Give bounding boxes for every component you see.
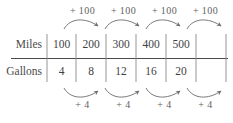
bottom-arrow-label-1: + 4 [60, 100, 105, 110]
miles-cell-3: 300 [106, 39, 136, 51]
bottom-arrow-1 [64, 88, 98, 97]
bottom-arrow-4 [187, 88, 221, 97]
top-arrow-2 [105, 20, 139, 29]
top-arrow-1 [64, 20, 98, 29]
gallons-cell-2: 8 [76, 66, 106, 78]
top-arrow-label-3: + 100 [142, 6, 187, 16]
top-arrow-3 [146, 20, 180, 29]
gallons-cell-4: 16 [136, 66, 166, 78]
row-label-gallons: Gallons [0, 66, 42, 78]
top-arrow-label-4: + 100 [183, 6, 228, 16]
bottom-arrows [64, 88, 221, 97]
top-arrow-label-2: + 100 [101, 6, 146, 16]
miles-cell-2: 200 [76, 39, 106, 51]
miles-cell-4: 400 [136, 39, 166, 51]
row-label-miles: Miles [0, 39, 42, 51]
bottom-arrow-label-3: + 4 [142, 100, 187, 110]
bottom-arrow-2 [105, 88, 139, 97]
bottom-arrow-label-2: + 4 [101, 100, 146, 110]
top-arrows [64, 20, 221, 29]
gallons-cell-5: 20 [166, 66, 196, 78]
bottom-arrow-label-4: + 4 [183, 100, 228, 110]
ratio-table-figure: + 100 + 100 + 100 + 100 Miles Gallons 10… [0, 0, 233, 123]
top-arrow-label-1: + 100 [60, 6, 105, 16]
miles-cell-1: 100 [47, 39, 76, 51]
top-arrow-4 [187, 20, 221, 29]
bottom-arrow-3 [146, 88, 180, 97]
gallons-cell-3: 12 [106, 66, 136, 78]
gallons-cell-1: 4 [47, 66, 76, 78]
miles-cell-5: 500 [166, 39, 196, 51]
